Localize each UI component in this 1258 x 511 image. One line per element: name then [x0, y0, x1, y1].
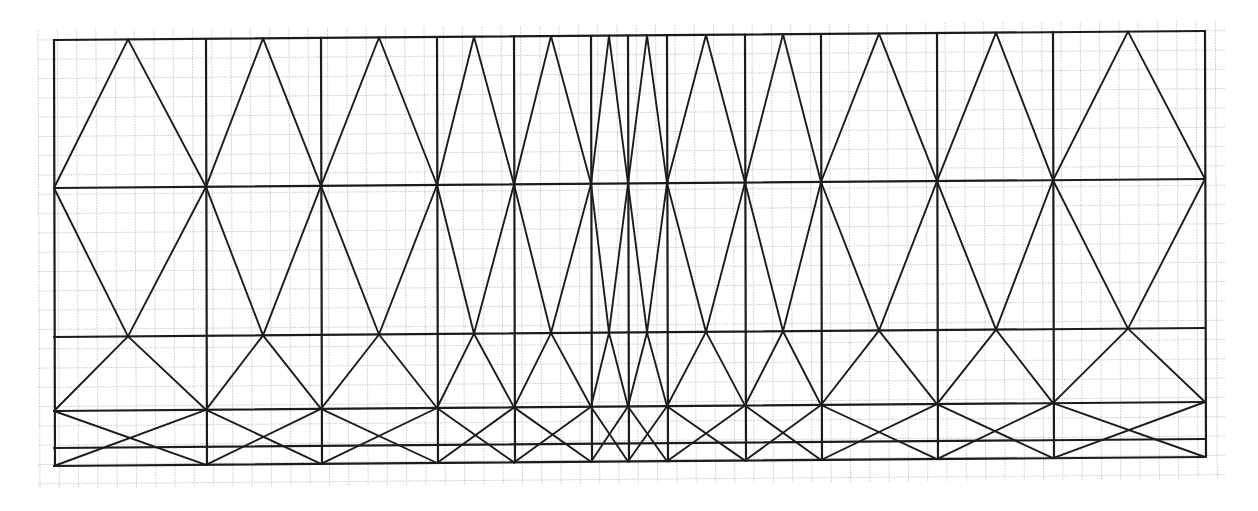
column-line-8: [745, 35, 746, 461]
column-line-9: [821, 34, 822, 460]
column-line-7: [667, 35, 668, 461]
column-line-5: [591, 36, 592, 462]
column-line-3: [437, 37, 438, 463]
column-line-12: [1205, 31, 1206, 457]
column-line-2: [321, 38, 322, 464]
triangle-construction-drawing: [0, 0, 1258, 511]
column-line-0: [54, 40, 55, 466]
column-line-4: [514, 36, 515, 462]
column-line-10: [937, 33, 938, 459]
column-line-1: [206, 39, 207, 465]
column-line-11: [1053, 32, 1054, 458]
graph-paper-diagram: [0, 0, 1258, 511]
column-line-6: [628, 36, 629, 462]
